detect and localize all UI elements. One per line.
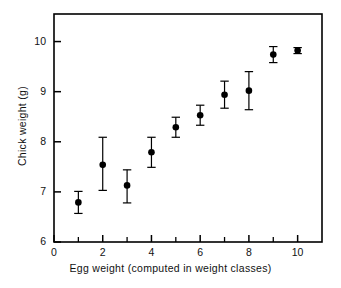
y-tick-label: 10 xyxy=(26,35,46,47)
chart-figure: 678910 0246810 Chick weight (g) Egg weig… xyxy=(0,0,341,288)
axis-frame xyxy=(54,14,322,242)
data-point xyxy=(124,182,131,189)
data-point xyxy=(173,124,180,131)
y-tick-label: 7 xyxy=(26,185,46,197)
data-point xyxy=(148,149,155,156)
y-tick-label: 6 xyxy=(26,235,46,247)
y-axis-title: Chick weight (g) xyxy=(16,46,28,206)
x-tick-label: 2 xyxy=(93,246,113,258)
y-tick-label: 9 xyxy=(26,85,46,97)
x-tick-label: 6 xyxy=(190,246,210,258)
x-axis-title: Egg weight (computed in weight classes) xyxy=(0,262,341,274)
data-point xyxy=(75,199,82,206)
data-point xyxy=(197,112,204,119)
x-tick-label: 0 xyxy=(44,246,64,258)
y-tick-label: 8 xyxy=(26,135,46,147)
data-point xyxy=(246,87,253,94)
data-series xyxy=(74,47,302,214)
data-point xyxy=(221,91,228,98)
axis-ticks xyxy=(54,42,298,242)
data-point xyxy=(99,162,106,169)
plot-area xyxy=(0,0,341,288)
x-tick-label: 8 xyxy=(239,246,259,258)
data-point xyxy=(270,51,277,58)
data-point xyxy=(294,47,301,54)
x-tick-label: 4 xyxy=(141,246,161,258)
x-tick-label: 10 xyxy=(288,246,308,258)
